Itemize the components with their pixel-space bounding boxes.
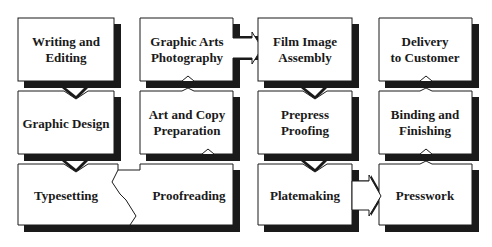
label-artcopy-line2: Preparation: [154, 123, 222, 138]
label-film-line1: Film Image: [273, 34, 337, 49]
platemaking-presswork-arrow: [352, 175, 381, 216]
label-prepress-line1: Prepress: [281, 107, 329, 122]
label-writing-line1: Writing and: [32, 34, 101, 49]
label-artcopy-line1: Art and Copy: [149, 107, 226, 122]
label-photo-line2: Photography: [151, 50, 224, 65]
label-proofreading: Proofreading: [152, 188, 226, 203]
label-platemaking: Platemaking: [270, 188, 341, 203]
workflow-diagram: Writing and Editing Graphic Arts Photogr…: [0, 0, 492, 247]
label-prepress-line2: Proofing: [281, 123, 330, 138]
label-photo-line1: Graphic Arts: [150, 34, 223, 49]
label-writing-line2: Editing: [45, 50, 87, 65]
label-film-line2: Assembly: [278, 50, 332, 65]
label-graphic-design: Graphic Design: [22, 116, 110, 131]
label-delivery-line1: Delivery: [402, 34, 449, 49]
label-presswork: Presswork: [396, 188, 455, 203]
label-binding-line2: Finishing: [399, 123, 452, 138]
label-delivery-line2: to Customer: [391, 50, 460, 65]
label-binding-line1: Binding and: [391, 107, 460, 122]
label-typesetting: Typesetting: [34, 188, 99, 203]
